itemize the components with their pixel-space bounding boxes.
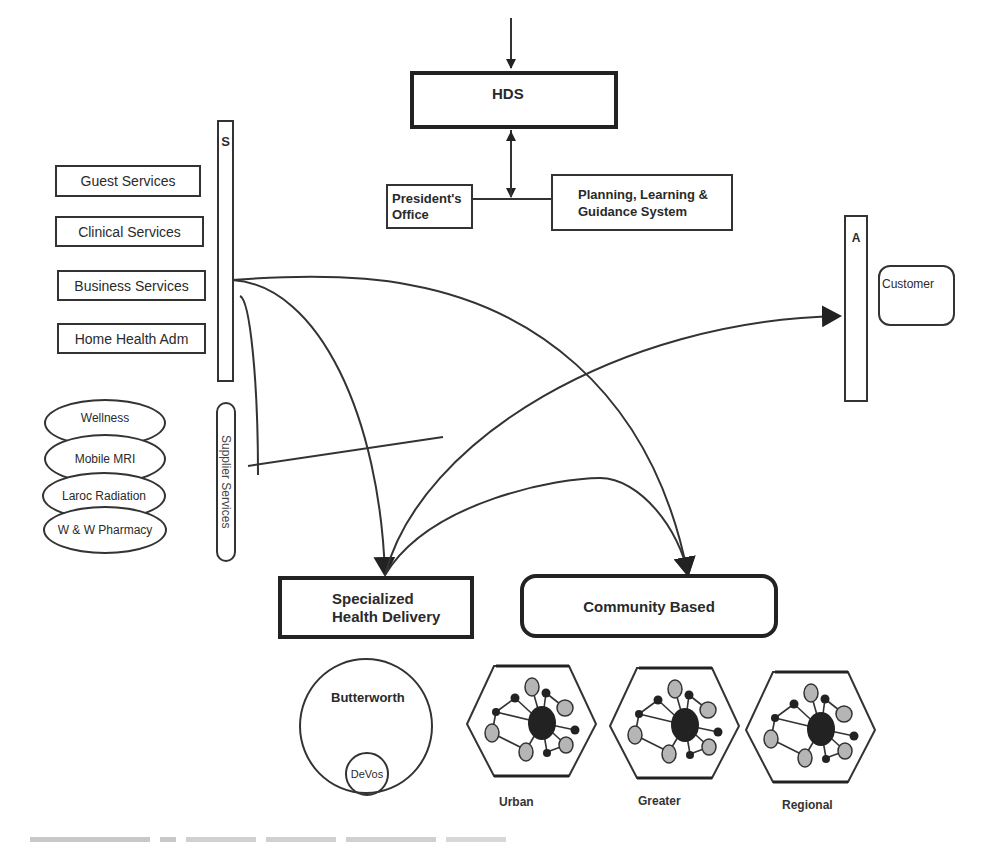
specialized-label-line2: Health Delivery [332, 608, 440, 626]
service-home-health[interactable]: Home Health Adm [57, 323, 206, 354]
supplier-services-label: Supplier Services [219, 435, 233, 528]
oval-ww-pharmacy[interactable]: W & W Pharmacy [43, 506, 167, 554]
service-label: Business Services [74, 278, 188, 294]
planning-learning-guidance-box[interactable]: Planning, Learning & Guidance System [551, 174, 733, 231]
devos-circle[interactable]: DeVos [345, 752, 389, 796]
s-to-community-curve [232, 277, 688, 575]
community-based-label: Community Based [583, 598, 715, 615]
specialized-to-community-arc [385, 478, 688, 575]
customer-box[interactable]: Customer [878, 265, 955, 326]
butterworth-circle[interactable]: Butterworth DeVos [299, 658, 433, 794]
service-label: Guest Services [81, 173, 176, 189]
presidents-office-box[interactable]: President's Office [386, 184, 473, 229]
customer-label: Customer [882, 277, 934, 291]
network-label-urban: Urban [499, 795, 534, 809]
planning-label-line1: Planning, Learning & [578, 186, 708, 203]
community-based-box[interactable]: Community Based [520, 574, 778, 638]
hds-box[interactable]: HDS [410, 71, 618, 129]
a-bar-label: A [852, 231, 861, 245]
presidents-office-label: President's Office [392, 191, 471, 223]
service-guest[interactable]: Guest Services [55, 165, 201, 197]
supplier-cross-line [248, 437, 443, 466]
specialized-label-line1: Specialized [332, 590, 414, 608]
s-bar-label: S [221, 134, 230, 149]
service-label: Clinical Services [78, 224, 181, 240]
oval-label: Mobile MRI [75, 452, 136, 466]
service-label: Home Health Adm [75, 331, 189, 347]
hds-label: HDS [492, 85, 524, 102]
oval-label: Laroc Radiation [62, 489, 146, 503]
s-bar[interactable]: S [217, 120, 234, 382]
oval-label: Wellness [81, 411, 129, 425]
specialized-to-customer-curve [385, 316, 840, 575]
figure-caption-cropped [30, 826, 590, 842]
planning-label-line2: Guidance System [578, 203, 687, 220]
service-clinical[interactable]: Clinical Services [55, 216, 204, 247]
oval-label: W & W Pharmacy [58, 523, 153, 537]
supplier-services-bar[interactable]: Supplier Services [216, 402, 236, 562]
devos-label: DeVos [351, 768, 383, 780]
specialized-health-delivery-box[interactable]: Specialized Health Delivery [278, 576, 474, 639]
a-bar[interactable]: A [844, 215, 868, 402]
network-label-regional: Regional [782, 798, 833, 812]
butterworth-label: Butterworth [331, 690, 405, 705]
s-hook-line [240, 296, 258, 475]
s-to-specialized-curve [232, 280, 385, 575]
service-business[interactable]: Business Services [57, 270, 206, 301]
network-label-greater: Greater [638, 794, 681, 808]
